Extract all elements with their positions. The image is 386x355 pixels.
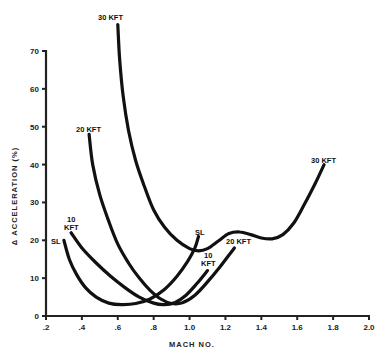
curve-sl: [64, 237, 199, 305]
y-axis-title: Δ ACCELERATION (%): [10, 147, 19, 245]
x-tick-label: .8: [150, 323, 157, 332]
y-tick-label: 0: [35, 312, 40, 321]
x-tick-label: 1.2: [220, 323, 232, 332]
x-tick-label: 1.8: [328, 323, 340, 332]
x-tick-label: .6: [114, 323, 121, 332]
x-axis-title: MACH NO.: [169, 340, 215, 349]
curve-30-kft: [118, 25, 324, 251]
label-10kft-inline-line2: KFT: [201, 259, 216, 268]
label-30kft-right: 30 KFT: [311, 156, 336, 165]
x-tick-label: 1.0: [184, 323, 196, 332]
label-10kft-line2: KFT: [64, 223, 79, 232]
x-tick-label: 1.4: [256, 323, 268, 332]
label-sl-inline: SL: [195, 228, 205, 237]
x-tick-label: .4: [79, 323, 86, 332]
label-30kft-top: 30 KFT: [98, 13, 123, 22]
acceleration-vs-mach-chart: .2.4.6.81.01.21.41.61.82.0 0102030405060…: [0, 0, 386, 355]
y-tick-label: 70: [30, 47, 39, 56]
data-curves: [64, 25, 324, 305]
curve-labels: 30 KFT 20 KFT 10 KFT SL 30 KFT SL 10 KFT…: [51, 13, 336, 268]
x-tick-label: 2.0: [363, 323, 375, 332]
axes: [45, 50, 370, 317]
y-tick-label: 30: [30, 198, 39, 207]
y-tick-label: 60: [30, 85, 39, 94]
x-tick-label: .2: [43, 323, 50, 332]
y-tick-label: 20: [30, 236, 39, 245]
x-axis-ticks: .2.4.6.81.01.21.41.61.82.0: [43, 316, 375, 332]
label-20kft-inline: 20 KFT: [226, 237, 251, 246]
x-tick-label: 1.6: [292, 323, 304, 332]
y-tick-label: 40: [30, 161, 39, 170]
y-tick-label: 50: [30, 123, 39, 132]
y-axis-ticks: 010203040506070: [30, 47, 46, 321]
label-sl: SL: [51, 237, 61, 246]
label-20kft: 20 KFT: [76, 125, 101, 134]
y-tick-label: 10: [30, 274, 39, 283]
